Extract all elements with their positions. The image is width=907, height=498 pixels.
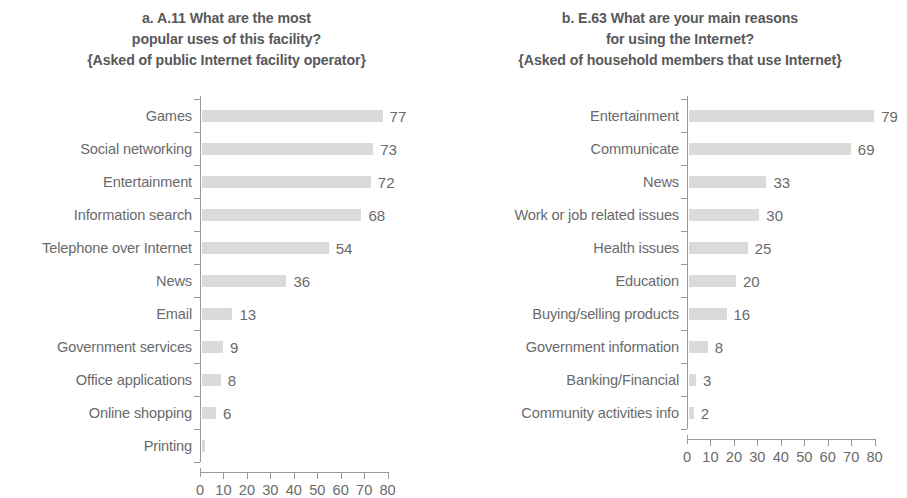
y-axis-tick bbox=[681, 231, 687, 232]
y-axis-tick bbox=[681, 264, 687, 265]
y-axis-tick bbox=[681, 330, 687, 331]
x-axis-tick bbox=[388, 473, 389, 479]
x-axis-tick-label: 70 bbox=[838, 449, 864, 465]
x-axis-tick-label: 80 bbox=[862, 449, 888, 465]
y-axis-tick bbox=[681, 132, 687, 133]
y-axis-tick bbox=[194, 264, 200, 265]
x-axis-tick-label: 60 bbox=[815, 449, 841, 465]
bar-value-label: 20 bbox=[743, 272, 760, 289]
y-axis-tick bbox=[681, 363, 687, 364]
y-axis-tick bbox=[681, 99, 687, 100]
category-label: News bbox=[453, 174, 679, 190]
bar-row: Printing bbox=[0, 429, 453, 462]
bar-row: Government information8 bbox=[453, 330, 907, 363]
x-axis-tick bbox=[341, 473, 342, 479]
bar-row: News33 bbox=[453, 165, 907, 198]
category-label: Email bbox=[2, 306, 192, 322]
category-label: Buying/selling products bbox=[453, 306, 679, 322]
bar bbox=[689, 209, 759, 221]
y-axis-tick bbox=[194, 198, 200, 199]
bar-value-label: 33 bbox=[773, 173, 790, 190]
x-axis-tick-label: 80 bbox=[375, 482, 401, 498]
bar bbox=[689, 275, 736, 287]
chart-panel-a: a. A.11 What are the most popular uses o… bbox=[0, 0, 453, 461]
x-axis-tick bbox=[781, 440, 782, 446]
y-axis-tick bbox=[681, 198, 687, 199]
bar bbox=[202, 143, 373, 155]
x-axis-tick-label: 30 bbox=[744, 449, 770, 465]
x-axis-tick bbox=[317, 473, 318, 479]
bar bbox=[689, 308, 727, 320]
x-axis-tick-label: 20 bbox=[721, 449, 747, 465]
bar-value-label: 25 bbox=[755, 239, 772, 256]
bar bbox=[202, 242, 329, 254]
category-label: Communicate bbox=[453, 141, 679, 157]
chart-a-title-line-1: a. A.11 What are the most bbox=[0, 8, 453, 29]
category-label: Social networking bbox=[2, 141, 192, 157]
bar-value-label: 6 bbox=[223, 404, 231, 421]
chart-b-plot-area: Entertainment79Communicate69News33Work o… bbox=[453, 96, 907, 461]
y-axis-line bbox=[687, 96, 688, 429]
bar-row: Entertainment72 bbox=[0, 165, 453, 198]
x-axis-tick bbox=[734, 440, 735, 446]
category-label: Government services bbox=[2, 339, 192, 355]
x-axis-tick-label: 10 bbox=[697, 449, 723, 465]
category-label: Community activities info bbox=[453, 405, 679, 421]
x-axis-tick-label: 40 bbox=[768, 449, 794, 465]
bar bbox=[202, 308, 232, 320]
bar bbox=[202, 209, 361, 221]
bar-row: Community activities info2 bbox=[453, 396, 907, 429]
bar-value-label: 30 bbox=[766, 206, 783, 223]
bar-row: Information search68 bbox=[0, 198, 453, 231]
chart-a-title-line-2: popular uses of this facility? bbox=[0, 29, 453, 50]
x-axis-tick-label: 50 bbox=[304, 482, 330, 498]
chart-a-title-line-3: {Asked of public Internet facility opera… bbox=[0, 50, 453, 71]
bar bbox=[202, 176, 371, 188]
bar bbox=[689, 176, 766, 188]
bar-value-label: 3 bbox=[703, 371, 711, 388]
y-axis-tick bbox=[194, 429, 200, 430]
x-axis-tick-label: 40 bbox=[281, 482, 307, 498]
y-axis-tick bbox=[194, 132, 200, 133]
x-axis-tick bbox=[804, 440, 805, 446]
category-label: Government information bbox=[453, 339, 679, 355]
category-label: Online shopping bbox=[2, 405, 192, 421]
bar-row: Health issues25 bbox=[453, 231, 907, 264]
bar-value-label: 16 bbox=[734, 305, 751, 322]
x-axis-tick-label: 60 bbox=[328, 482, 354, 498]
x-axis-tick bbox=[710, 440, 711, 446]
y-axis-tick bbox=[681, 297, 687, 298]
chart-b-title-line-2: for using the Internet? bbox=[453, 29, 907, 50]
bar bbox=[689, 407, 694, 419]
y-axis-tick bbox=[681, 165, 687, 166]
bar bbox=[689, 341, 708, 353]
chart-b-title: b. E.63 What are your main reasons for u… bbox=[453, 0, 907, 71]
bar bbox=[689, 242, 748, 254]
category-label: Education bbox=[453, 273, 679, 289]
bar-row: Buying/selling products16 bbox=[453, 297, 907, 330]
y-axis-tick bbox=[194, 363, 200, 364]
x-axis-tick bbox=[851, 440, 852, 446]
bar-row: Games77 bbox=[0, 99, 453, 132]
bar-value-label: 9 bbox=[230, 338, 238, 355]
bar-row: Banking/Financial3 bbox=[453, 363, 907, 396]
bar-row: Entertainment79 bbox=[453, 99, 907, 132]
x-axis-tick-label: 0 bbox=[674, 449, 700, 465]
bar-value-label: 54 bbox=[336, 239, 353, 256]
category-label: Office applications bbox=[2, 372, 192, 388]
category-label: Telephone over Internet bbox=[2, 240, 192, 256]
chart-b-title-line-3: {Asked of household members that use Int… bbox=[453, 50, 907, 71]
x-axis-tick bbox=[294, 473, 295, 479]
x-axis-tick-label: 20 bbox=[234, 482, 260, 498]
y-axis-tick bbox=[194, 231, 200, 232]
bar-value-label: 2 bbox=[701, 404, 709, 421]
chart-a-title: a. A.11 What are the most popular uses o… bbox=[0, 0, 453, 71]
bar bbox=[202, 407, 216, 419]
bar-row: Education20 bbox=[453, 264, 907, 297]
bar bbox=[202, 275, 286, 287]
bar-value-label: 77 bbox=[390, 107, 407, 124]
bar bbox=[689, 374, 696, 386]
y-axis-line bbox=[200, 96, 201, 462]
category-label: Printing bbox=[2, 438, 192, 454]
bar bbox=[689, 110, 874, 122]
